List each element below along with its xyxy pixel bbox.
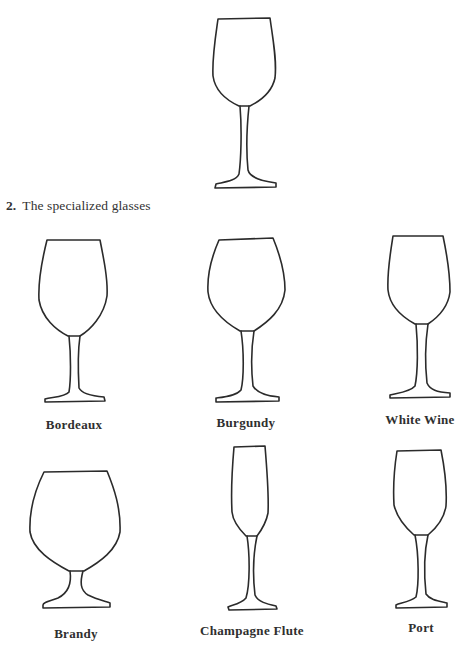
label-champagne-flute: Champagne Flute	[172, 623, 332, 639]
glass-illustrations	[0, 0, 475, 661]
label-brandy: Brandy	[0, 626, 156, 642]
section-number: 2.	[6, 198, 16, 213]
section-title: The specialized glasses	[22, 198, 150, 213]
champagne-flute-glass-icon	[228, 446, 277, 610]
white-wine-glass-icon	[388, 236, 450, 398]
all-purpose-glass-icon	[213, 18, 276, 188]
port-glass-icon	[394, 450, 447, 608]
section-heading: 2.The specialized glasses	[6, 198, 151, 214]
label-burgundy: Burgundy	[166, 415, 326, 431]
label-port: Port	[341, 620, 475, 636]
burgundy-glass-icon	[208, 238, 285, 402]
label-white-wine: White Wine	[340, 412, 475, 428]
bordeaux-glass-icon	[39, 240, 107, 402]
label-bordeaux: Bordeaux	[0, 417, 154, 433]
brandy-glass-icon	[30, 471, 120, 608]
